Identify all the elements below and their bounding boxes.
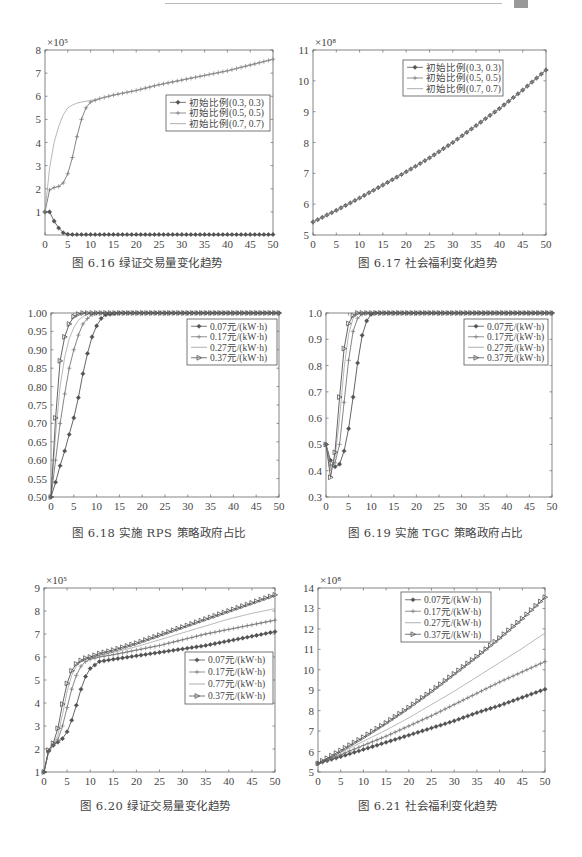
y-tick-label: 0.60 [28, 454, 48, 466]
y-exponent-label: ×10⁵ [46, 574, 67, 586]
legend: 0.07元/(kW·h)0.17元/(kW·h)0.77元/(kW·h)0.37… [185, 652, 273, 704]
y-tick-label: 5 [304, 229, 310, 241]
x-tick-label: 50 [270, 775, 282, 787]
x-tick-label: 10 [358, 775, 370, 787]
x-tick-label: 30 [177, 775, 189, 787]
legend: 初始比例(0.3, 0.3)初始比例(0.5, 0.5)初始比例(0.7, 0.… [403, 60, 503, 96]
x-tick-label: 25 [434, 500, 446, 512]
y-tick-label: 5 [36, 113, 42, 125]
y-tick-label: 0.6 [308, 412, 322, 424]
y-tick-label: 11 [303, 643, 314, 655]
legend: 0.07元/(kW·h)0.17元/(kW·h)0.27元/(kW·h)0.37… [401, 592, 491, 642]
plot-area [45, 50, 273, 235]
legend-entry-label: 0.17元/(kW·h) [487, 332, 544, 343]
x-tick-label: 45 [524, 500, 536, 512]
y-tick-label: 0.95 [28, 325, 48, 337]
legend-entry-label: 0.07元/(kW·h) [424, 595, 481, 606]
x-tick-label: 5 [334, 238, 340, 250]
y-tick-label: 0.4 [308, 465, 322, 477]
x-tick-label: 10 [85, 238, 97, 250]
caption-fig-6-17: 图 6.17 社会福利变化趋势 [358, 254, 497, 270]
legend-entry-label: 初始比例(0.3, 0.3) [189, 97, 264, 109]
y-tick-label: 0.90 [28, 344, 48, 356]
figures-canvas: 0510152025303540455012345678×10⁵初始比例(0.3… [0, 0, 582, 857]
y-tick-label: 8 [36, 44, 42, 56]
y-tick-label: 14 [303, 582, 315, 594]
y-tick-label: 4 [35, 697, 41, 709]
y-tick-label: 1.00 [28, 307, 48, 319]
x-tick-label: 5 [65, 238, 71, 250]
y-tick-label: 0.3 [308, 491, 322, 503]
legend-entry-label: 0.37元/(kW·h) [424, 630, 481, 641]
y-tick-label: 0.9 [308, 333, 322, 345]
caption-fig-6-16: 图 6.16 绿证交易量变化趋势 [72, 254, 223, 270]
y-tick-label: 2 [36, 183, 42, 195]
y-exponent-label: ×10⁸ [320, 574, 341, 586]
y-tick-label: 0.7 [308, 386, 322, 398]
x-tick-label: 20 [403, 775, 415, 787]
legend: 初始比例(0.3, 0.3)初始比例(0.5, 0.5)初始比例(0.7, 0.… [166, 95, 270, 131]
x-tick-label: 30 [449, 775, 461, 787]
y-tick-label: 0.70 [28, 417, 48, 429]
y-tick-label: 9 [35, 582, 41, 594]
y-tick-label: 7 [309, 725, 315, 737]
x-tick-label: 30 [182, 500, 194, 512]
x-tick-label: 35 [471, 238, 483, 250]
legend-entry-label: 0.27元/(kW·h) [210, 343, 267, 354]
x-tick-label: 45 [246, 775, 258, 787]
y-tick-label: 0.85 [28, 362, 48, 374]
y-tick-label: 0.80 [28, 381, 48, 393]
x-tick-label: 30 [176, 238, 188, 250]
caption-fig-6-19: 图 6.19 实施 TGC 策略政府占比 [348, 524, 523, 540]
x-tick-label: 5 [71, 500, 77, 512]
x-tick-label: 35 [199, 238, 211, 250]
x-tick-label: 30 [456, 500, 468, 512]
x-tick-label: 0 [323, 500, 329, 512]
y-tick-label: 1 [35, 766, 41, 778]
y-tick-label: 0.5 [308, 438, 322, 450]
legend-entry-label: 0.27元/(kW·h) [487, 343, 544, 354]
x-tick-label: 40 [501, 500, 513, 512]
x-tick-label: 10 [91, 500, 103, 512]
chart-fig-6-16: 0510152025303540455012345678×10⁵初始比例(0.3… [36, 36, 280, 250]
legend-entry-label: 0.17元/(kW·h) [210, 332, 267, 343]
legend-entry-label: 初始比例(0.7, 0.7) [426, 83, 501, 95]
y-tick-label: 12 [303, 623, 314, 635]
y-tick-label: 6 [35, 651, 41, 663]
legend-entry-label: 0.07元/(kW·h) [208, 655, 265, 666]
legend-entry-label: 0.27元/(kW·h) [424, 618, 481, 629]
x-tick-label: 50 [540, 775, 552, 787]
x-tick-label: 20 [137, 500, 149, 512]
x-tick-label: 35 [479, 500, 491, 512]
x-tick-label: 10 [366, 500, 378, 512]
legend-entry-label: 0.17元/(kW·h) [208, 667, 265, 678]
y-tick-label: 1 [36, 206, 42, 218]
y-tick-label: 0.50 [28, 491, 48, 503]
chart-fig-6-17: 05101520253035404550567891011×10⁸初始比例(0.… [298, 36, 552, 250]
x-tick-label: 0 [41, 775, 47, 787]
caption-fig-6-18: 图 6.18 实施 RPS 策略政府占比 [72, 524, 246, 540]
x-tick-label: 10 [85, 775, 97, 787]
legend-entry-label: 初始比例(0.5, 0.5) [426, 72, 501, 84]
x-tick-label: 0 [42, 238, 48, 250]
y-tick-label: 3 [36, 160, 42, 172]
y-tick-label: 11 [298, 44, 309, 56]
y-tick-label: 8 [304, 137, 310, 149]
y-exponent-label: ×10⁸ [315, 36, 336, 48]
caption-fig-6-20: 图 6.20 绿证交易量变化趋势 [80, 797, 231, 813]
y-tick-label: 6 [304, 198, 310, 210]
chart-fig-6-18: 051015202530354045500.500.550.600.650.70… [28, 307, 285, 512]
x-tick-label: 25 [160, 500, 172, 512]
x-tick-label: 5 [346, 500, 352, 512]
x-tick-label: 30 [447, 238, 459, 250]
y-tick-label: 7 [35, 628, 41, 640]
x-tick-label: 0 [48, 500, 54, 512]
x-tick-label: 40 [222, 238, 234, 250]
x-tick-label: 25 [154, 775, 166, 787]
x-tick-label: 50 [274, 500, 286, 512]
x-tick-label: 15 [114, 500, 126, 512]
x-tick-label: 10 [354, 238, 366, 250]
y-tick-label: 1.0 [308, 307, 322, 319]
x-tick-label: 5 [338, 775, 344, 787]
x-tick-label: 50 [268, 238, 280, 250]
